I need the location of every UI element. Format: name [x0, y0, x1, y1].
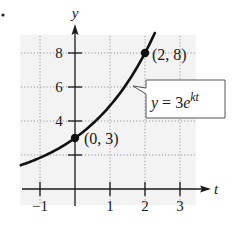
tick-label-y-6: 6: [55, 79, 63, 95]
tick-label-y-4: 4: [55, 113, 63, 129]
point-0-3: [71, 134, 79, 142]
point-label-0-3: (0, 3): [84, 130, 119, 148]
point-2-8: [141, 49, 149, 57]
tick-label-t-1: 1: [106, 198, 114, 214]
y-axis-label: y: [70, 5, 79, 21]
equation-callout: y = 3ekt: [133, 80, 225, 118]
tick-label-y-8: 8: [55, 45, 63, 61]
tick-label-t-2: 2: [141, 198, 149, 214]
point-label-2-8: (2, 8): [152, 46, 187, 64]
exponential-growth-chart: −1123468 y t (0, 3) (2, 8) y = 3ekt: [0, 0, 235, 227]
figure-bullet: [1, 13, 4, 16]
tick-label-t--1: −1: [32, 198, 48, 214]
tick-label-t-3: 3: [176, 198, 184, 214]
t-axis-label: t: [214, 181, 219, 197]
